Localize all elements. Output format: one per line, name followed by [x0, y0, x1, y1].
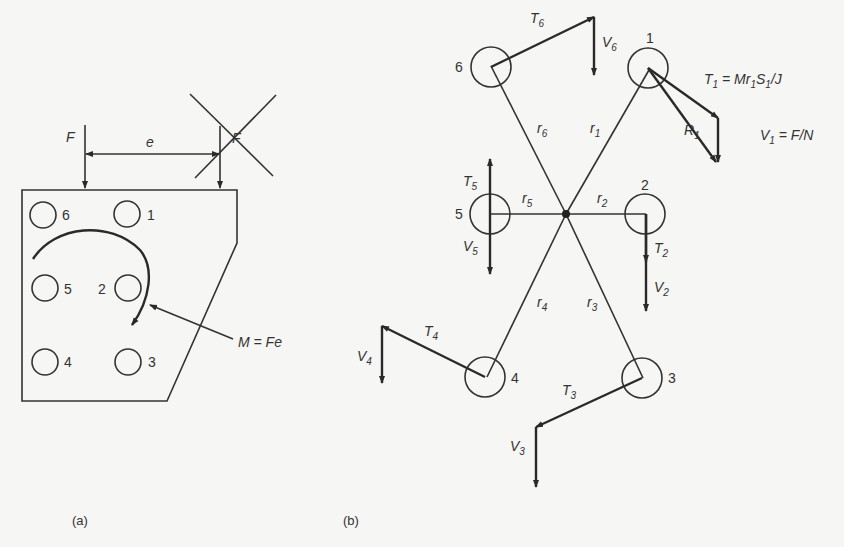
figure-b: 1 2 3 4 5 6 r1 r2 r3 r4 r5 r6 T1 = Mr1S1… [343, 10, 814, 528]
centroid-dot [562, 210, 570, 218]
figure-a: F F e 6 1 5 2 4 3 M = Fe (a) [22, 94, 282, 528]
T6-label: T6 [530, 10, 545, 29]
bolt-b-1-label: 1 [646, 30, 654, 46]
bolt-1 [114, 201, 140, 227]
bolt-4 [32, 349, 58, 375]
r3-label: r3 [587, 294, 598, 313]
bolt-5 [32, 275, 58, 301]
force-label: F [66, 129, 76, 145]
T2-label: T2 [654, 240, 669, 259]
V1-equation: V1 = F/N [760, 127, 814, 146]
eccentricity-label: e [146, 134, 154, 150]
R1-label: R1 [684, 122, 700, 141]
radius-6 [491, 66, 566, 214]
r6-label: r6 [537, 120, 548, 139]
radius-1 [566, 70, 649, 214]
r5-label: r5 [522, 190, 533, 209]
V4-label: V4 [357, 348, 372, 367]
bolt-2 [115, 275, 141, 301]
radius-3 [566, 214, 643, 378]
bolt-6 [30, 202, 56, 228]
T5-label: T5 [463, 173, 478, 192]
crossed-force-label: F [232, 130, 242, 146]
bolt-b-6-label: 6 [455, 59, 463, 75]
T3-label: T3 [562, 382, 577, 401]
V5-label: V5 [463, 238, 478, 257]
moment-arc-arrow [33, 230, 149, 325]
T3-vector [536, 378, 642, 427]
r2-label: r2 [597, 190, 608, 209]
moment-leader [150, 305, 233, 339]
bolt-group-diagram: F F e 6 1 5 2 4 3 M = Fe (a) [0, 0, 844, 547]
bolt-5-label: 5 [64, 281, 72, 297]
T1-equation: T1 = Mr1S1/J [704, 71, 783, 90]
T4-label: T4 [424, 323, 439, 342]
radius-4 [487, 214, 566, 377]
r4-label: r4 [537, 294, 548, 313]
bolt-3-label: 3 [148, 354, 156, 370]
V6-label: V6 [602, 34, 617, 53]
caption-a: (a) [72, 513, 88, 528]
bolt-4-label: 4 [64, 354, 72, 370]
bolt-b-4-label: 4 [511, 370, 519, 386]
bolt-1-label: 1 [147, 207, 155, 223]
moment-label: M = Fe [238, 334, 282, 350]
r1-label: r1 [590, 120, 600, 139]
bolt-6-label: 6 [62, 207, 70, 223]
caption-b: (b) [343, 513, 359, 528]
V3-label: V3 [510, 438, 525, 457]
bolt-b-3-label: 3 [668, 370, 676, 386]
bolt-b-2-label: 2 [641, 177, 649, 193]
bolt-3 [115, 349, 141, 375]
bolt-b-5-label: 5 [455, 206, 463, 222]
V2-label: V2 [654, 279, 669, 298]
bolt-2-label: 2 [98, 281, 106, 297]
